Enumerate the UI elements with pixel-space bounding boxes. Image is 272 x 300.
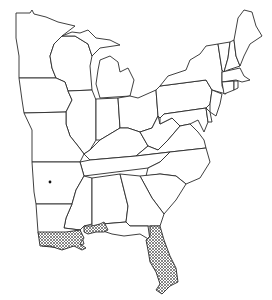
state-connecticut <box>222 81 234 94</box>
state-rhode-island <box>234 81 238 90</box>
state-maine <box>234 10 262 66</box>
eastern-us-map <box>0 0 272 300</box>
locality-dot-arkansas <box>49 181 52 184</box>
state-michigan-lower <box>96 56 134 98</box>
state-new-jersey <box>210 90 222 116</box>
hatched-area-louisiana-coast <box>38 230 86 250</box>
distribution-map <box>0 0 272 300</box>
state-iowa <box>19 78 72 113</box>
hatched-area-florida-peninsula <box>146 226 178 294</box>
